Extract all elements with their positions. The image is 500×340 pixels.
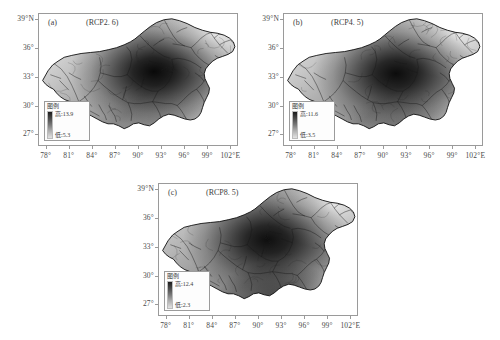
legend-a: 图例高:13.9低:5.3 <box>44 101 90 141</box>
x-tick-c-2 <box>212 316 213 319</box>
x-tick-b-6 <box>429 146 430 149</box>
x-tick-a-2 <box>92 146 93 149</box>
x-tick-a-3 <box>115 146 116 149</box>
legend-low-value-c: 低:2.3 <box>175 302 193 309</box>
y-tick-label-a-4: 27° <box>0 129 34 138</box>
x-tick-c-5 <box>281 316 282 319</box>
x-tick-b-1 <box>314 146 315 149</box>
x-tick-label-a-8: 102°E <box>210 151 250 160</box>
x-tick-b-7 <box>452 146 453 149</box>
y-tick-label-a-2: 33° <box>0 72 34 81</box>
y-tick-label-c-1: 36° <box>118 213 154 222</box>
x-tick-a-7 <box>207 146 208 149</box>
legend-high-value-c: 高:12.4 <box>175 281 193 288</box>
x-tick-b-2 <box>337 146 338 149</box>
x-tick-a-1 <box>69 146 70 149</box>
y-tick-label-a-3: 30° <box>0 101 34 110</box>
x-tick-a-6 <box>184 146 185 149</box>
y-tick-label-b-3: 30° <box>243 101 279 110</box>
x-tick-b-5 <box>406 146 407 149</box>
y-tick-label-b-1: 36° <box>243 43 279 52</box>
legend-b: 图例高:11.6低:3.5 <box>289 101 335 141</box>
x-tick-b-3 <box>360 146 361 149</box>
y-tick-label-c-3: 30° <box>118 271 154 280</box>
legend-body-c: 高:12.4低:2.3 <box>167 281 207 309</box>
legend-body-a: 高:13.9低:5.3 <box>47 111 87 139</box>
x-tick-a-0 <box>46 146 47 149</box>
legend-title-b: 图例 <box>292 103 332 110</box>
x-tick-b-0 <box>291 146 292 149</box>
legend-title-c: 图例 <box>167 273 207 280</box>
legend-values-c: 高:12.4低:2.3 <box>175 281 193 309</box>
legend-values-b: 高:11.6低:3.5 <box>300 111 318 139</box>
x-tick-a-4 <box>138 146 139 149</box>
x-tick-c-0 <box>166 316 167 319</box>
x-tick-c-3 <box>235 316 236 319</box>
y-tick-label-c-4: 27° <box>118 299 154 308</box>
y-tick-label-c-2: 33° <box>118 242 154 251</box>
legend-color-ramp-b <box>292 111 298 139</box>
y-tick-label-a-0: 39°N <box>0 14 34 23</box>
x-tick-c-1 <box>189 316 190 319</box>
y-tick-label-b-0: 39°N <box>243 14 279 23</box>
x-tick-a-8 <box>230 146 231 149</box>
legend-color-ramp-c <box>167 281 173 309</box>
legend-values-a: 高:13.9低:5.3 <box>55 111 73 139</box>
legend-title-a: 图例 <box>47 103 87 110</box>
x-tick-c-6 <box>304 316 305 319</box>
y-tick-label-c-0: 39°N <box>118 184 154 193</box>
y-tick-label-b-2: 33° <box>243 72 279 81</box>
legend-low-value-b: 低:3.5 <box>300 132 318 139</box>
legend-c: 图例高:12.4低:2.3 <box>164 271 210 311</box>
y-tick-label-b-4: 27° <box>243 129 279 138</box>
x-tick-c-7 <box>327 316 328 319</box>
x-tick-label-b-8: 102°E <box>455 151 495 160</box>
x-tick-c-8 <box>350 316 351 319</box>
legend-color-ramp-a <box>47 111 53 139</box>
x-tick-b-8 <box>475 146 476 149</box>
x-tick-b-4 <box>383 146 384 149</box>
legend-high-value-b: 高:11.6 <box>300 111 318 118</box>
x-tick-c-4 <box>258 316 259 319</box>
legend-body-b: 高:11.6低:3.5 <box>292 111 332 139</box>
x-tick-label-c-8: 102°E <box>330 321 370 330</box>
legend-high-value-a: 高:13.9 <box>55 111 73 118</box>
legend-low-value-a: 低:5.3 <box>55 132 73 139</box>
x-tick-a-5 <box>161 146 162 149</box>
y-tick-label-a-1: 36° <box>0 43 34 52</box>
